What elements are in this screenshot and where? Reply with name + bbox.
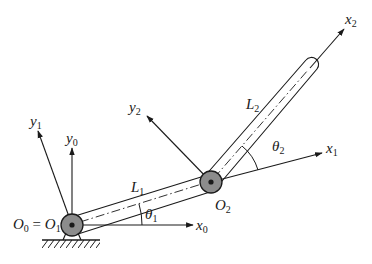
x1-label: x1	[325, 140, 338, 158]
y0-label: y0	[64, 130, 78, 148]
x1-axis	[211, 153, 322, 182]
o2-label: O2	[215, 197, 231, 215]
theta2-arc	[242, 146, 258, 170]
y2-label: y2	[127, 99, 141, 117]
l1-label: L1	[130, 179, 144, 197]
joint-o2	[200, 171, 222, 193]
x2-axis	[310, 29, 344, 68]
link-2	[204, 57, 319, 187]
origin-label: O0 = O1	[13, 216, 61, 234]
x0-label: x0	[195, 217, 208, 235]
theta1-label: θ1	[145, 206, 157, 224]
y2-axis	[147, 116, 211, 182]
y1-label: y1	[28, 113, 42, 131]
joint-o1	[61, 214, 83, 236]
x2-label: x2	[344, 11, 357, 29]
theta2-label: θ2	[272, 138, 284, 156]
l2-label: L2	[245, 96, 259, 114]
manipulator-diagram: x0 y0 y1 x1 y2 x2 L1 L2 θ1 θ2 O2 O0 = O1	[0, 0, 372, 264]
